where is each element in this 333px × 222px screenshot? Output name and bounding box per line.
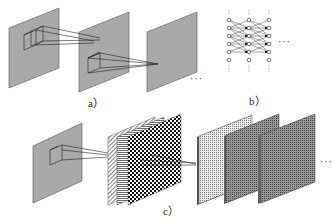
ellipsis-a: ··· [190,73,203,84]
panel-a [9,8,197,92]
label-a: a） [88,94,104,110]
plane-a1 [9,8,59,88]
label-c: c） [163,202,179,218]
input-plane-c [33,123,82,203]
panel-b-network [227,10,271,72]
ellipsis-b: ··· [278,36,291,47]
panel-c [33,114,315,205]
label-b: b） [249,92,266,108]
plane-a2 [79,12,129,92]
ellipsis-c: ··· [320,156,333,167]
